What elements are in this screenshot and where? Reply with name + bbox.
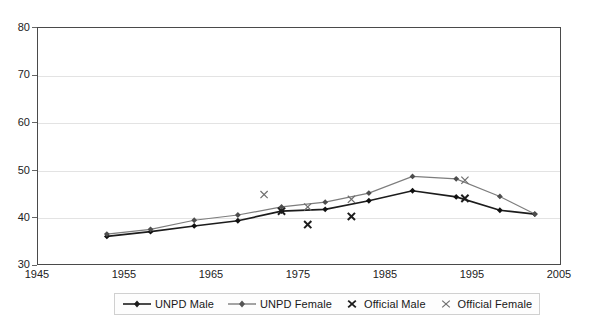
legend-item-unpd-male: UNPD Male (122, 298, 214, 310)
legend-label: UNPD Male (155, 298, 214, 310)
y-axis-tick-label: 60 (2, 117, 30, 128)
chart-legend: UNPD Male UNPD Female Official Male (114, 293, 540, 315)
legend-label: Official Male (364, 298, 426, 310)
x-axis-tick-label: 1975 (275, 268, 321, 280)
line-diamond-gray-icon (227, 298, 257, 310)
legend-label: Official Female (458, 298, 533, 310)
gridline-40 (38, 218, 560, 219)
x-axis-tick-label: 1965 (188, 268, 234, 280)
y-axis-tick-label: 50 (2, 165, 30, 176)
gridline-70 (38, 76, 560, 77)
y-axis-tick-mark (32, 265, 37, 266)
x-thin-icon (439, 298, 453, 310)
y-axis-tick-label: 80 (2, 22, 30, 33)
x-axis-tick-label: 1985 (362, 268, 408, 280)
legend-item-unpd-female: UNPD Female (227, 298, 332, 310)
x-bold-icon (345, 298, 359, 310)
x-axis-tick-label: 1995 (449, 268, 495, 280)
y-axis-tick-label: 40 (2, 212, 30, 223)
x-axis-tick-label: 1955 (101, 268, 147, 280)
y-axis-tick-label: 70 (2, 69, 30, 80)
legend-item-official-male: Official Male (345, 298, 426, 310)
gridline-60 (38, 123, 560, 124)
plot-area (37, 27, 561, 265)
x-axis-tick-label: 2005 (536, 268, 582, 280)
legend-label: UNPD Female (260, 298, 332, 310)
gridline-50 (38, 171, 560, 172)
chart-container: 80 70 60 50 40 30 1945 1955 1965 1975 19… (0, 0, 596, 327)
legend-item-official-female: Official Female (439, 298, 533, 310)
x-axis-tick-label: 1945 (14, 268, 60, 280)
line-diamond-dark-icon (122, 298, 152, 310)
